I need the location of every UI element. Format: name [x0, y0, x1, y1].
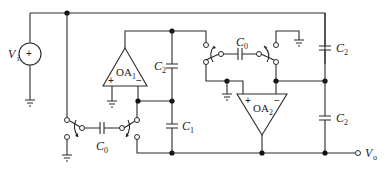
svg-text:2: 2: [162, 66, 166, 75]
switch-pivot: [219, 52, 224, 57]
switch-pivot: [80, 126, 85, 131]
output-terminal[interactable]: [356, 151, 361, 156]
oa1-output-wire: [125, 31, 172, 48]
ground-icon: [294, 40, 304, 46]
ground-icon: [107, 101, 117, 107]
ground-icon: [25, 100, 35, 106]
opamp-oa1: OA 1 + −: [103, 48, 147, 86]
voltage-source: +: [19, 43, 41, 65]
wire: [137, 140, 172, 154]
opamp-oa2: OA 2 + −: [237, 94, 287, 135]
switch-terminal: [135, 118, 140, 123]
ground-icon: [62, 155, 72, 161]
switch-pivot: [257, 52, 262, 57]
switch-arm: [261, 54, 274, 60]
svg-text:OA: OA: [116, 66, 132, 78]
svg-text:+: +: [245, 95, 251, 106]
switch-terminal: [274, 60, 279, 65]
junction-node: [322, 150, 327, 155]
capacitor-c0-bottom: [100, 122, 104, 134]
switch-terminal: [65, 135, 70, 140]
svg-text:2: 2: [269, 108, 273, 117]
switch-terminal: [274, 43, 279, 48]
capacitor-c0-top: [238, 48, 242, 60]
switch-terminal: [135, 135, 140, 140]
svg-text:−: −: [274, 95, 280, 106]
svg-text:−: −: [136, 75, 142, 86]
oa1-minus-wire: [138, 86, 172, 101]
switch-terminal: [65, 118, 70, 123]
svg-text:+: +: [108, 75, 114, 86]
wire: [276, 65, 325, 82]
svg-text:0: 0: [244, 42, 248, 51]
svg-text:+: +: [26, 48, 32, 59]
wire: [276, 31, 299, 43]
capacitor-c2-oa1: [166, 64, 178, 68]
switch-arrow-arc: [264, 46, 269, 62]
wire: [172, 31, 206, 42]
svg-text:2: 2: [344, 118, 348, 127]
junction-node: [135, 98, 140, 103]
circuit-diagram: + V i C 0 OA 1 + −: [0, 0, 384, 182]
vi-label: V: [8, 47, 17, 61]
oa2-plus-wire: [227, 81, 243, 94]
svg-text:o: o: [373, 153, 377, 162]
svg-text:0: 0: [104, 146, 108, 155]
switch-pivot: [120, 126, 125, 131]
switch-terminal: [204, 43, 209, 48]
junction-node: [259, 150, 264, 155]
top-rail-wire: [30, 13, 325, 62]
ground-icon: [222, 94, 232, 100]
svg-text:1: 1: [190, 126, 194, 135]
capacitor-c2-right-bottom: [319, 116, 331, 120]
switch-terminal: [204, 60, 209, 65]
wire: [206, 65, 227, 82]
switch-arm: [206, 54, 219, 60]
capacitor-c1: [166, 124, 178, 128]
svg-text:2: 2: [344, 48, 348, 57]
svg-text:OA: OA: [253, 102, 269, 114]
